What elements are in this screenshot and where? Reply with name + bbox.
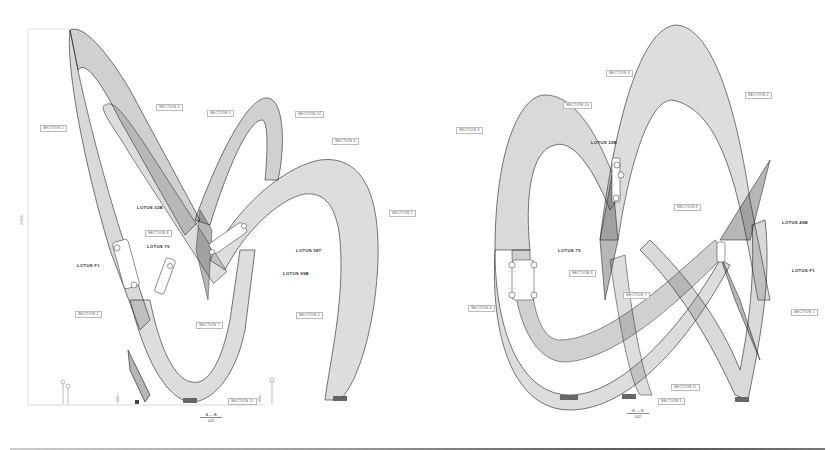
section-label: SECTION 6 <box>332 138 359 145</box>
section-label: SECTION 4 <box>569 270 596 277</box>
car-label: LOTUS 32B <box>135 205 165 210</box>
car-lotus-79-drawing <box>154 257 176 294</box>
section-label: SECTION 7 <box>389 210 416 217</box>
section-label: SECTION 1 <box>75 311 102 318</box>
section-label: SECTION 7 <box>196 322 223 329</box>
car-label: LOTUS 99B <box>281 271 311 276</box>
small-dimension-label: 300 <box>258 396 262 402</box>
ribbon-dark-blade <box>128 350 150 402</box>
section-label: SECTION 5 <box>658 398 685 405</box>
section-a-caption: A — A 002 <box>200 412 222 423</box>
section-label: SECTION 8 <box>145 230 172 237</box>
car-label: LOTUS 49B <box>780 220 810 225</box>
section-label: SECTION 2 <box>40 125 67 132</box>
section-label: SECTION 4 <box>296 312 323 319</box>
section-label: SECTION 6 <box>468 305 495 312</box>
car-label: LOTUS F1 <box>75 263 102 268</box>
section-label: SECTION 10 <box>563 102 592 109</box>
height-dimension-label: 22838 <box>20 215 24 225</box>
section-label: SECTION 7 <box>623 292 650 299</box>
section-a-sheet: 002 <box>200 417 222 423</box>
section-label: SECTION 3 <box>606 70 633 77</box>
ribbon-left-arch <box>495 95 620 250</box>
car-label: LOTUS 79 <box>145 244 172 249</box>
section-label: SECTION 11 <box>228 398 257 405</box>
section-b-b-elevation <box>494 25 770 410</box>
car-label: LOTUS 32B <box>589 140 619 145</box>
section-label: SECTION 3 <box>156 104 183 111</box>
section-label: SECTION 1 <box>791 309 818 316</box>
section-b-sheet: 002 <box>627 413 649 419</box>
section-label: SECTION 11 <box>671 384 700 391</box>
car-label: LOTUS 79 <box>556 248 583 253</box>
ribbon-bottom-loop <box>130 250 255 402</box>
small-dimension-label: 300 <box>116 396 120 402</box>
section-b-caption: B — B 002 <box>627 408 649 419</box>
elevation-drawing <box>0 0 835 450</box>
car-lotus-49b-drawing <box>717 242 725 262</box>
car-label: LOTUS 98T <box>294 248 323 253</box>
car-lotus-79-b-drawing <box>509 260 537 300</box>
section-label: SECTION 10 <box>295 111 324 118</box>
car-label: LOTUS F1 <box>790 268 817 273</box>
ribbon-right-loop <box>210 160 378 400</box>
section-label: SECTION 2 <box>745 92 772 99</box>
section-label: SECTION 9 <box>456 127 483 134</box>
section-label: SECTION 5 <box>207 110 234 117</box>
section-label: SECTION 8 <box>674 204 701 211</box>
section-a-a-elevation <box>28 29 378 405</box>
